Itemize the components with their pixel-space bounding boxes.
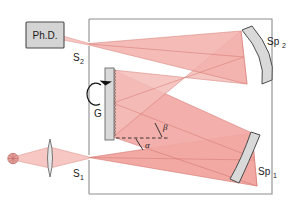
diffraction-angle-label: β (162, 122, 168, 132)
collimating-mirror-subscript: 2 (282, 42, 286, 49)
detector-label: Ph.D. (32, 30, 57, 41)
focusing-mirror-subscript: 1 (273, 172, 277, 179)
entrance-slit-label: S (73, 168, 80, 179)
grating-label: G (94, 108, 102, 119)
exit-slit-label: S (73, 52, 80, 63)
diffraction-grating (105, 68, 116, 140)
focusing-mirror-label: Sp (258, 166, 271, 177)
exit-slit-subscript: 2 (80, 58, 84, 65)
entrance-slit-subscript: 1 (80, 174, 84, 181)
diagram-canvas: Ph.D. S (0, 0, 295, 210)
incidence-angle-label: α (145, 140, 150, 150)
photodiode-detector: Ph.D. (26, 22, 64, 48)
collimating-mirror-label: Sp (267, 36, 280, 47)
optical-diagram-figure: Ph.D. S (0, 0, 295, 210)
light-source (8, 153, 18, 163)
